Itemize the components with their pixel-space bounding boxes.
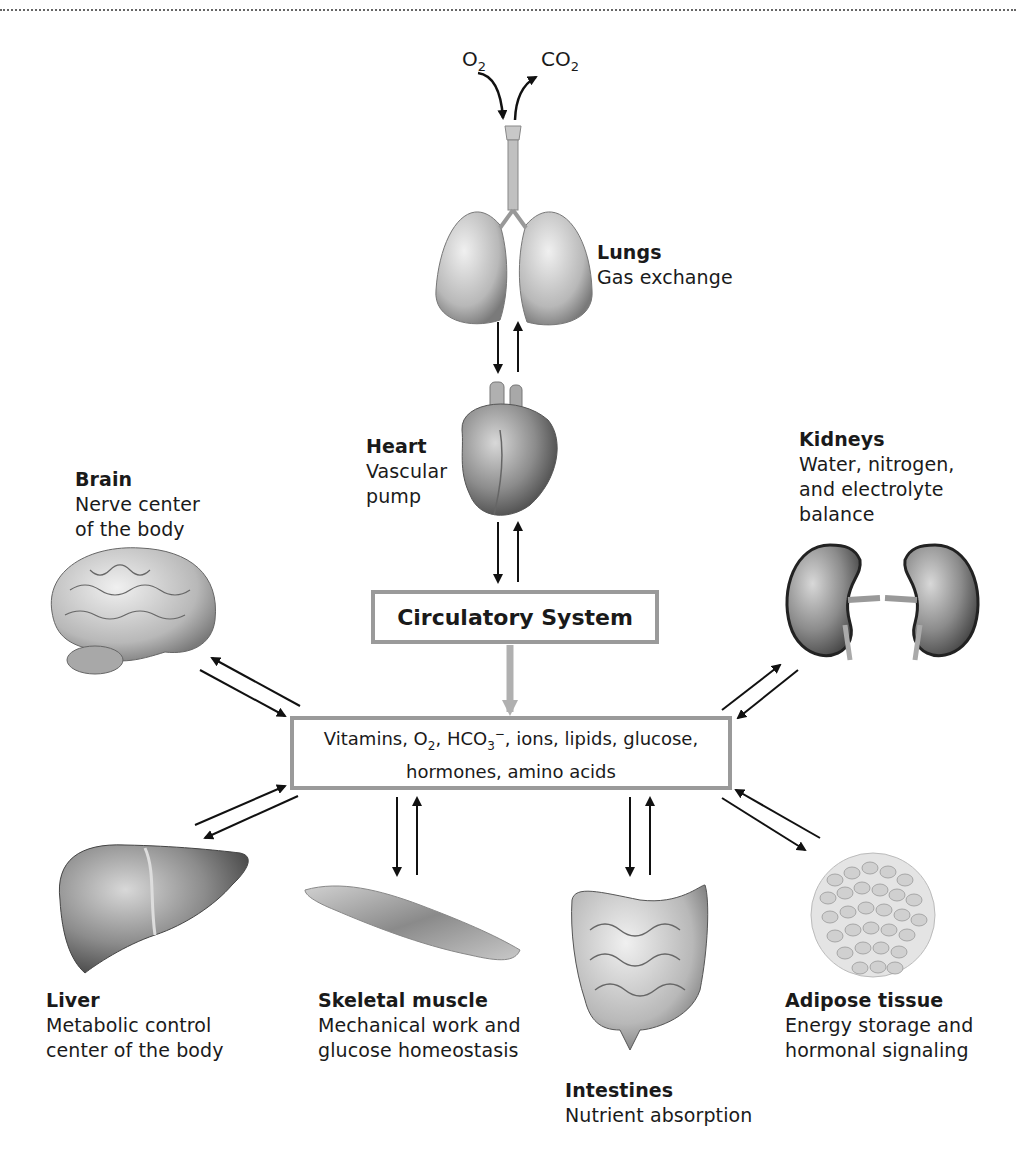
circulatory-system-box: Circulatory System <box>371 590 659 644</box>
gas-arrows <box>478 73 536 120</box>
heart-label: Heart Vascular pump <box>366 434 447 509</box>
skeletal-muscle-label: Skeletal muscle Mechanical work and gluc… <box>318 988 521 1063</box>
liver-illustration <box>59 845 248 973</box>
liver-label: Liver Metabolic control center of the bo… <box>46 988 224 1063</box>
adipose-tissue-illustration <box>811 853 935 977</box>
nutrients-box: Vitamins, O2, HCO3−, ions, lipids, gluco… <box>290 716 732 790</box>
lungs-label: Lungs Gas exchange <box>597 240 733 290</box>
nutrients-text: Vitamins, O2, HCO3−, ions, lipids, gluco… <box>324 721 698 785</box>
heart-illustration <box>462 382 557 515</box>
skeletal-muscle-illustration <box>305 886 520 960</box>
kidneys-illustration <box>787 545 978 660</box>
brain-illustration <box>51 548 215 674</box>
brain-label: Brain Nerve center of the body <box>75 467 200 542</box>
adipose-tissue-label: Adipose tissue Energy storage and hormon… <box>785 988 973 1063</box>
intestines-label: Intestines Nutrient absorption <box>565 1078 752 1128</box>
intestines-illustration <box>572 885 708 1050</box>
kidneys-label: Kidneys Water, nitrogen, and electrolyte… <box>799 427 954 527</box>
lungs-illustration <box>436 126 592 325</box>
